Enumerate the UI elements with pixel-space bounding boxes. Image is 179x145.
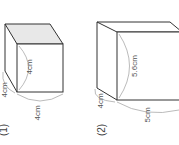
figure-canvas: 4cm 4cm 4cm (1) 5.6cm 5cm 4cm (2) bbox=[0, 0, 179, 145]
figure-1-number: (1) bbox=[0, 124, 9, 136]
figure-2-prism: 5.6cm 5cm 4cm (2) bbox=[95, 22, 179, 136]
cube-width-label: 4cm bbox=[33, 105, 42, 120]
cube-front-face bbox=[17, 44, 63, 92]
prism-front-face bbox=[117, 32, 179, 100]
prism-height-label: 5.6cm bbox=[130, 55, 139, 77]
figure-2-number: (2) bbox=[96, 124, 107, 136]
cube-width-arc bbox=[17, 94, 63, 101]
prism-depth-label: 4cm bbox=[96, 93, 105, 108]
cube-top-face bbox=[5, 24, 63, 44]
cube-height-label: 4cm bbox=[25, 59, 34, 74]
prism-width-label: 5cm bbox=[143, 107, 152, 122]
figure-1-cube: 4cm 4cm 4cm (1) bbox=[0, 24, 63, 136]
cube-depth-label: 4cm bbox=[0, 82, 9, 97]
prism-top-face bbox=[97, 22, 179, 32]
